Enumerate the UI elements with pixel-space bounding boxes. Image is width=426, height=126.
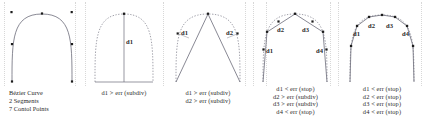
legend-line-curve-type: Bézier Curve <box>9 89 49 97</box>
distance-label-d4: d4 <box>402 30 409 37</box>
caption-line-d1: d1 < err (stop) <box>253 85 338 93</box>
control-point-0 <box>10 11 12 13</box>
control-point-5 <box>11 80 13 82</box>
caption-line-d3: d3 < err (stop) <box>338 100 426 108</box>
chord-left <box>176 14 208 82</box>
split-point-1 <box>266 31 268 33</box>
midpoint-marker-right <box>311 20 313 22</box>
split-point-4 <box>394 16 396 18</box>
endpoint-marker-right <box>325 48 327 50</box>
control-point-6 <box>71 80 73 82</box>
panel-original-curve-legend: Bézier Curve 2 Segments 7 Contol Points <box>9 89 49 112</box>
apex-point <box>207 13 209 15</box>
legend-line-control-points: 7 Contol Points <box>9 105 49 113</box>
converged-polyline <box>350 15 414 82</box>
panel-original-curve: Bézier Curve 2 Segments 7 Contol Points <box>0 0 85 126</box>
panel-level-4: d1 d2 d3 d4 d1 < err (stop) d2 < err (st… <box>338 0 426 126</box>
distance-label-d4: d4 <box>316 47 323 54</box>
split-point-5 <box>406 25 408 27</box>
distance-label-d3: d3 <box>386 22 393 29</box>
panel-level-3-caption: d1 < err (stop) d2 > err (subdiv) d3 > e… <box>253 85 338 115</box>
panel-level-2-graphic <box>163 0 253 90</box>
split-point-3 <box>368 16 370 18</box>
split-point-2 <box>322 31 324 33</box>
panel-level-3: d1 d2 d3 d4 d1 < err (stop) d2 > err (su… <box>253 0 338 126</box>
control-point-2 <box>71 11 73 13</box>
distance-label-d1: d1 <box>181 29 188 36</box>
endpoint-marker-left <box>262 48 264 50</box>
split-point-apex <box>294 13 296 15</box>
chord-right <box>208 14 240 82</box>
panel-level-3-graphic <box>253 0 338 90</box>
caption-line-d3: d3 > err (subdiv) <box>253 100 338 108</box>
chord-4 <box>323 32 327 82</box>
midpoint-marker <box>123 13 125 15</box>
control-point-1 <box>41 12 43 14</box>
panel-level-1: d1 d1 > err (subdiv) <box>85 0 163 126</box>
distance-label-d1: d1 <box>266 47 273 54</box>
panel-level-1-caption: d1 > err (subdiv) <box>85 89 163 97</box>
distance-label-d2: d2 <box>277 26 284 33</box>
chord-1 <box>263 32 267 82</box>
panel-level-1-graphic <box>85 0 163 90</box>
panel-level-2-caption: d1 > err (subdiv) d2 > err (subdiv) <box>163 89 253 104</box>
distance-label-d1: d1 <box>126 38 133 45</box>
caption-line-d1: d1 > err (subdiv) <box>163 89 253 97</box>
legend-line-segments: 2 Segments <box>9 97 49 105</box>
caption-line-d2: d2 > err (subdiv) <box>253 93 338 101</box>
caption-line-d2: d2 > err (subdiv) <box>163 97 253 105</box>
caption-line-d2: d2 < err (stop) <box>338 93 426 101</box>
split-point-right <box>236 32 238 34</box>
distance-label-d2: d2 <box>226 29 233 36</box>
panel-level-4-graphic <box>338 0 426 90</box>
control-point-3 <box>11 43 13 45</box>
dashed-curve-path <box>176 14 240 82</box>
caption-line-d4: d4 < err (stop) <box>338 108 426 116</box>
chord-3 <box>295 14 323 32</box>
split-point-2 <box>356 25 358 27</box>
midpoint-marker-left <box>277 20 279 22</box>
dashed-curve-path <box>350 15 414 82</box>
distance-label-d2: d2 <box>368 22 375 29</box>
caption-line-d4: d4 < err (stop) <box>253 108 338 116</box>
control-point-4 <box>71 43 73 45</box>
panel-level-2: d1 d2 d1 > err (subdiv) d2 > err (subdiv… <box>163 0 253 126</box>
split-point-left <box>177 32 179 34</box>
panel-original-curve-graphic <box>0 0 85 90</box>
bezier-curve-path <box>12 14 72 82</box>
distance-label-d1: d1 <box>353 30 360 37</box>
panel-level-4-caption: d1 < err (stop) d2 < err (stop) d3 < err… <box>338 85 426 115</box>
caption-line-d1: d1 > err (subdiv) <box>85 89 163 97</box>
split-point-1 <box>350 45 352 47</box>
caption-line-d1: d1 < err (stop) <box>338 85 426 93</box>
split-point-apex <box>381 14 383 16</box>
bezier-subdivision-figure: Bézier Curve 2 Segments 7 Contol Points … <box>0 0 426 126</box>
split-point-6 <box>412 45 414 47</box>
distance-label-d3: d3 <box>302 26 309 33</box>
